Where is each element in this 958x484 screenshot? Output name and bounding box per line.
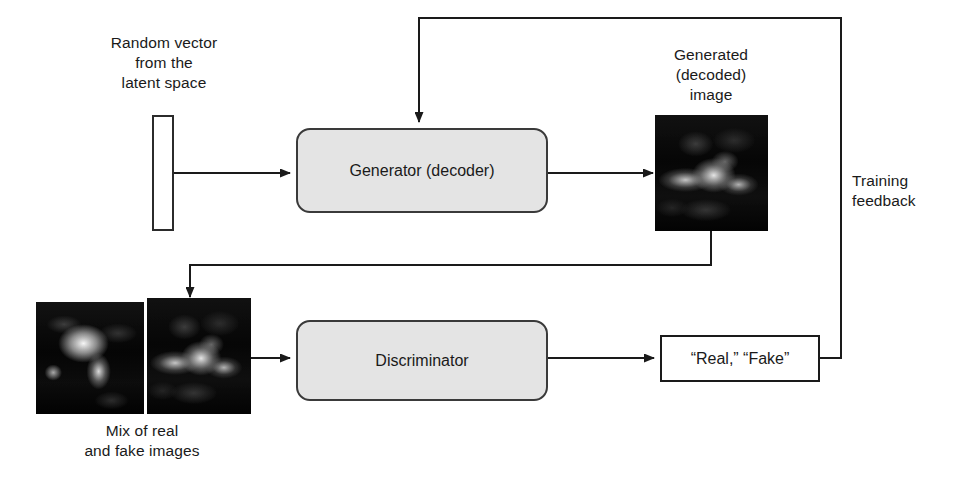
generated-image-label: Generated (decoded) image (630, 45, 792, 105)
discriminator-node[interactable]: Discriminator (296, 320, 548, 401)
mix-images-label: Mix of real and fake images (28, 421, 256, 461)
latent-vector-icon (152, 115, 174, 231)
verdict-node[interactable]: “Real,” “Fake” (660, 335, 820, 382)
generator-label: Generator (decoder) (350, 162, 495, 180)
wire-generated-image-to-mix (190, 231, 711, 297)
latent-vector-label: Random vector from the latent space (64, 33, 264, 93)
fake-image-thumbnail (147, 298, 251, 414)
discriminator-label: Discriminator (375, 352, 468, 370)
training-feedback-label: Training feedback (852, 171, 952, 211)
gan-diagram-canvas: Random vector from the latent space Gene… (0, 0, 958, 484)
verdict-label: “Real,” “Fake” (691, 350, 790, 368)
real-image-thumbnail (36, 302, 144, 414)
generator-node[interactable]: Generator (decoder) (296, 128, 548, 213)
generated-image-thumbnail (655, 115, 768, 231)
